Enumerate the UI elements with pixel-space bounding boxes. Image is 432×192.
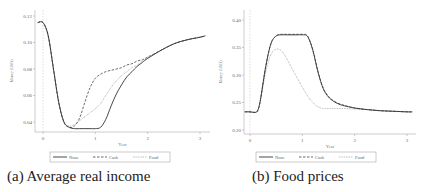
- legend: NoneCashFood: [256, 152, 376, 162]
- x-axis-label: Year: [326, 144, 335, 149]
- x-axis-label: Year: [118, 142, 127, 147]
- chart-average-real-income: 0.040.060.080.100.120123YearMoney (USD)N…: [0, 0, 216, 192]
- y-tick-label: 0.40: [232, 18, 241, 23]
- legend-label-none: None: [69, 155, 79, 160]
- x-tick-label: 3: [406, 138, 409, 143]
- caption-food-prices: (b) Food prices: [252, 168, 344, 185]
- caption-average-real-income: (a) Average real income: [7, 168, 150, 185]
- y-tick-label: 0.35: [232, 45, 241, 50]
- y-tick-label: 0.04: [23, 120, 32, 125]
- y-tick-label: 0.06: [23, 93, 32, 98]
- x-tick-label: 0: [249, 138, 252, 143]
- y-tick-label: 0.25: [232, 100, 241, 105]
- series-line-food: [38, 22, 205, 126]
- x-tick-label: 2: [146, 136, 149, 141]
- legend-label-none: None: [275, 155, 285, 160]
- x-tick-label: 2: [353, 138, 356, 143]
- y-tick-label: 0.08: [23, 67, 32, 72]
- x-tick-label: 1: [94, 136, 97, 141]
- legend: NoneCashFood: [50, 152, 170, 162]
- y-tick-label: 0.10: [23, 40, 32, 45]
- y-axis-label: Money (USD): [218, 60, 223, 84]
- chart-food-prices: 0.200.250.300.350.400123YearMoney (USD)N…: [216, 0, 432, 192]
- legend-label-cash: Cash: [315, 155, 325, 160]
- series-line-cash: [38, 22, 205, 128]
- y-tick-label: 0.12: [23, 14, 32, 19]
- legend-label-food: Food: [355, 155, 365, 160]
- legend-label-cash: Cash: [109, 155, 119, 160]
- legend-label-food: Food: [149, 155, 159, 160]
- series-line-none: [245, 35, 412, 113]
- y-axis-label: Money (USD): [9, 59, 14, 83]
- series-line-food: [245, 49, 412, 113]
- y-tick-label: 0.20: [232, 128, 241, 133]
- y-tick-label: 0.30: [232, 73, 241, 78]
- x-tick-label: 1: [301, 138, 304, 143]
- x-tick-label: 3: [199, 136, 202, 141]
- x-tick-label: 0: [42, 136, 45, 141]
